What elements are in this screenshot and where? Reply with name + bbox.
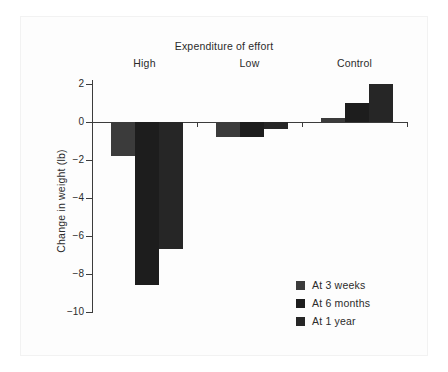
y-tick-label: −10 <box>44 306 84 317</box>
bar <box>216 122 240 137</box>
group-label-low: Low <box>200 57 300 69</box>
bar <box>135 122 159 285</box>
y-tick-label: −6 <box>44 230 84 241</box>
bar <box>264 122 288 129</box>
y-tick-label: −4 <box>44 192 84 203</box>
y-tick-mark <box>86 312 93 313</box>
legend-item[interactable]: At 3 weeks <box>296 276 370 294</box>
x-tick-mark <box>302 122 303 127</box>
legend-swatch-icon <box>296 281 305 290</box>
y-tick-mark <box>86 160 93 161</box>
group-label-high: High <box>95 57 195 69</box>
y-tick-label: −2 <box>44 154 84 165</box>
x-tick-mark <box>197 122 198 127</box>
chart-title: Expenditure of effort <box>0 40 448 52</box>
y-tick-label: 2 <box>44 78 84 89</box>
y-axis-line <box>92 80 93 313</box>
legend-label: At 1 year <box>312 315 356 327</box>
y-tick-label: 0 <box>44 116 84 127</box>
y-tick-mark <box>86 122 93 123</box>
plot-area: Expenditure of effort Change in weight (… <box>0 0 448 372</box>
bar <box>240 122 264 137</box>
legend-swatch-icon <box>296 317 305 326</box>
legend-item[interactable]: At 1 year <box>296 312 370 330</box>
figure: Expenditure of effort Change in weight (… <box>0 0 448 372</box>
legend-label: At 6 months <box>312 297 370 309</box>
y-tick-label: −8 <box>44 268 84 279</box>
y-tick-mark <box>86 274 93 275</box>
legend-swatch-icon <box>296 299 305 308</box>
x-tick-mark <box>407 122 408 127</box>
y-tick-mark <box>86 84 93 85</box>
y-tick-mark <box>86 236 93 237</box>
bar <box>321 118 345 122</box>
bar <box>369 84 393 122</box>
legend-label: At 3 weeks <box>312 279 365 291</box>
legend: At 3 weeksAt 6 monthsAt 1 year <box>296 276 370 330</box>
group-label-control: Control <box>305 57 405 69</box>
bar <box>111 122 135 156</box>
legend-item[interactable]: At 6 months <box>296 294 370 312</box>
y-tick-mark <box>86 198 93 199</box>
bar <box>159 122 183 249</box>
bar <box>345 103 369 122</box>
